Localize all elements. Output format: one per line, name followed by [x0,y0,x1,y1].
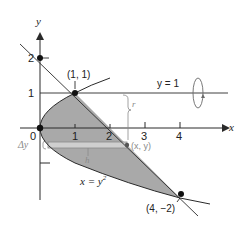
y-axis-label: y [35,15,41,27]
x-tick-label-1: 1 [72,130,78,142]
point-label-x-y: (x, y) [131,141,151,151]
parabola-label-text: x = y [79,175,103,187]
delta-y-label: Δy [17,139,29,150]
point-4-minus2 [178,191,184,197]
rotation-arrow-icon [201,94,205,98]
x-axis-label: x [228,121,234,133]
parabola-label-exponent: 2 [103,174,107,182]
y-tick-label-2: 2 [28,52,34,64]
x-tick-label-4: 4 [176,130,182,142]
y-tick-label-1: 1 [28,87,34,99]
point-x-y [125,143,129,147]
point-4-minus2-arrow-icon [177,198,180,202]
x-tick-label-2: 2 [106,130,112,142]
point-1-1 [72,90,78,96]
line-y-1-label: y = 1 [157,78,179,89]
point-origin [37,125,43,131]
origin-label: 0 [30,130,36,142]
r-bracket [123,95,131,140]
point-label-1-1: (1, 1) [67,69,90,80]
h-label: h [85,155,90,165]
point-label-4-minus2: (4, −2) [146,203,175,214]
r-label: r [132,99,136,109]
revolution-diagram: y x 2 1 0 1 2 3 4 (1, 1) y = 1 (4, −2) (… [0,0,239,226]
strip [48,142,127,148]
parabola-label: x = y2 [79,174,107,187]
y-axis-arrow-icon [36,32,44,40]
